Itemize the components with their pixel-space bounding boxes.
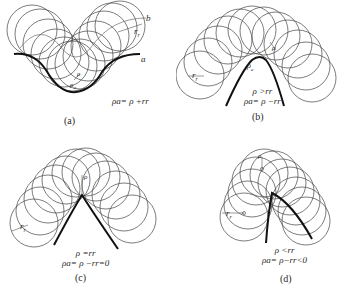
caption-c: (c)	[75, 272, 86, 283]
pitch-curve-b	[20, 18, 146, 57]
caption-a: (a)	[64, 115, 75, 126]
label-roller-radius: rr	[192, 70, 198, 84]
caption-d: (d)	[280, 273, 292, 284]
panel-d: rr ρ ρ <rr ρa= ρ−rr<0 (d)	[176, 145, 352, 291]
roller-circles	[220, 149, 330, 245]
formula-line: ρa= ρ −rr	[244, 96, 281, 106]
formula-line: ρa= ρ−rr<0	[262, 255, 307, 265]
label-roller-radius: rr	[134, 26, 140, 40]
panel-a: b a rr ρ ρa ρa= ρ +rr (a)	[0, 0, 176, 145]
formula-line: ρ <rr	[262, 245, 307, 255]
panel-b-drawing	[176, 0, 352, 145]
label-a: a	[141, 54, 146, 64]
formula-line: ρ =rr	[62, 248, 109, 258]
panel-c-drawing	[0, 145, 176, 291]
formula-line: ρa= ρ +rr	[112, 96, 149, 106]
label-b: b	[146, 13, 151, 23]
label-roller-radius: rr	[226, 208, 232, 222]
formula-a: ρa= ρ +rr	[112, 96, 149, 106]
label-rho: ρ	[84, 172, 87, 182]
label-rho: ρ	[272, 43, 275, 53]
formula-c: ρ =rr ρa= ρ −rr=0	[62, 248, 109, 268]
formula-line: ρ >rr	[244, 86, 281, 96]
formula-line: ρa= ρ −rr=0	[62, 258, 109, 268]
label-rho-a: ρa	[70, 80, 76, 93]
label-rho-a: ρa	[247, 61, 253, 75]
cam-profile-d	[266, 193, 312, 243]
label-rho: ρ	[258, 151, 261, 161]
label-roller-radius: rr	[20, 221, 26, 235]
panel-b: rr ρ ρa ρ >rr ρa= ρ −rr (b)	[176, 0, 352, 145]
caption-b: (b)	[252, 111, 264, 122]
formula-b: ρ >rr ρa= ρ −rr	[244, 86, 281, 106]
label-rho: ρ	[77, 69, 80, 79]
roller-circles	[7, 1, 145, 91]
formula-d: ρ <rr ρa= ρ−rr<0	[262, 245, 307, 265]
panel-c: rr ρ ρ =rr ρa= ρ −rr=0 (c)	[0, 145, 176, 291]
panel-d-drawing	[176, 145, 352, 291]
